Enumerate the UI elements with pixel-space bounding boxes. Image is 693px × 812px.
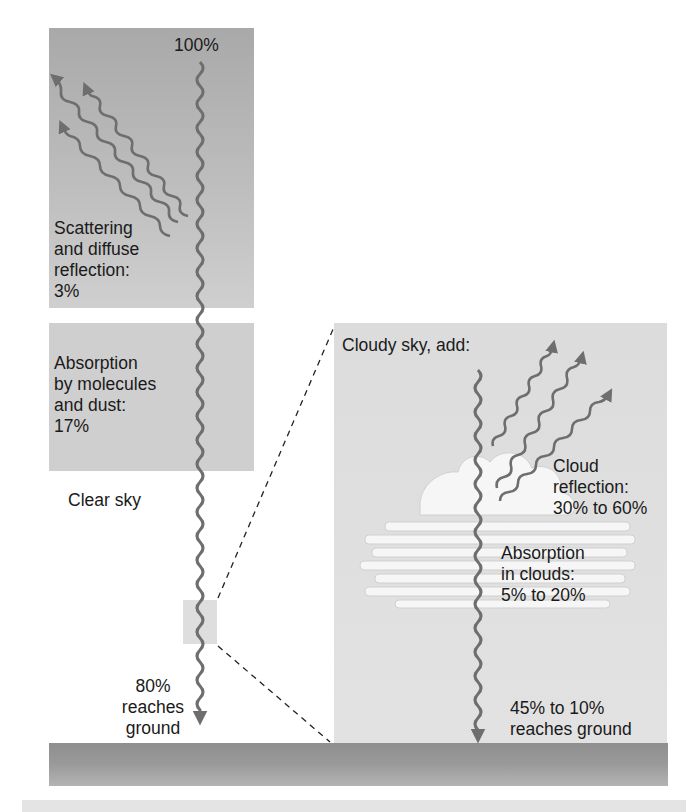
molecule-absorption-label: Absorption by molecules and dust: 17% xyxy=(54,353,156,437)
cloudy-sky-heading: Cloudy sky, add: xyxy=(342,335,470,356)
cloud-absorption-label: Absorption in clouds: 5% to 20% xyxy=(501,543,586,606)
incoming-radiation-label: 100% xyxy=(174,35,219,56)
clear-sky-main-wave xyxy=(197,62,203,718)
scattering-label: Scattering and diffuse reflection: 3% xyxy=(54,218,139,302)
clear-sky-label: Clear sky xyxy=(68,490,141,511)
cloudy-sky-ground-label: 45% to 10% reaches ground xyxy=(510,698,632,740)
scattering-arrows xyxy=(55,78,188,236)
cloud-reflection-label: Cloud reflection: 30% to 60% xyxy=(553,456,647,519)
clear-sky-ground-label: 80% reaches ground xyxy=(112,676,194,739)
inset-leader-lines xyxy=(218,327,334,742)
